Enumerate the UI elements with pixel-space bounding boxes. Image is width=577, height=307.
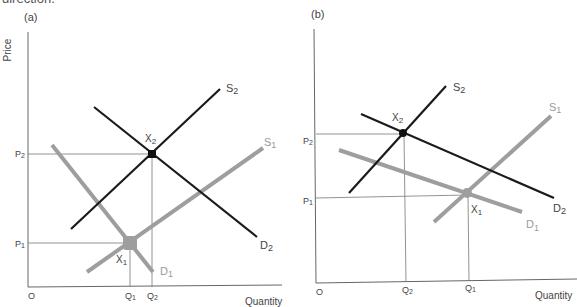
x-axis-label: Quantity	[245, 296, 282, 307]
p1-tick-label: P1	[303, 196, 313, 206]
panel-b-label: (b)	[311, 8, 324, 20]
p2-tick-label: P2	[303, 136, 313, 146]
s1-label: S1	[549, 101, 561, 115]
x1-label: X1	[116, 254, 128, 267]
q1-tick-label: Q1	[465, 283, 476, 293]
supply-curve-s2	[349, 86, 446, 193]
supply-demand-figure: (a) Price X2 X1 S2 S1 D2 D1 P2 P1 O Q1 Q…	[0, 0, 577, 307]
supply-curve-s2	[71, 89, 220, 229]
x2-label: X2	[145, 133, 157, 146]
q2-guide-line	[404, 134, 406, 282]
supply-curve-s1	[87, 148, 263, 272]
origin-label: O	[316, 287, 323, 297]
q1-guide-line	[468, 195, 469, 281]
y-axis	[314, 29, 316, 283]
p2-tick-label: P2	[15, 149, 25, 159]
demand-curve-d2	[94, 107, 257, 237]
demand-curve-d1	[339, 150, 522, 212]
s1-label: S1	[264, 136, 276, 150]
x2-label: X2	[392, 112, 404, 125]
equilibrium-x2-marker	[399, 129, 407, 137]
q2-tick-label: Q2	[147, 291, 158, 301]
demand-curve-d2	[361, 114, 554, 198]
s2-label: S2	[226, 82, 238, 96]
d1-label: D1	[160, 265, 173, 279]
d2-label: D2	[260, 239, 273, 253]
p1-guide-line	[316, 195, 467, 198]
x1-label: X1	[471, 204, 483, 217]
q2-tick-label: Q2	[402, 285, 413, 295]
origin-label: O	[28, 291, 35, 301]
x-axis	[28, 285, 282, 287]
panel-a: (a) Price X2 X1 S2 S1 D2 D1 P2 P1 O Q1 Q…	[2, 11, 282, 307]
q1-tick-label: Q1	[125, 291, 136, 301]
panel-b: (b) X2 X1 S2 S1 D2 D1 P2 P1 O Q2 Q1 Quan…	[303, 8, 577, 301]
supply-curve-s1	[434, 116, 551, 222]
equilibrium-x2-marker	[148, 150, 156, 158]
d1-label: D1	[526, 218, 539, 233]
x-axis-label: Quantity	[535, 290, 572, 301]
s2-label: S2	[453, 81, 465, 95]
y-axis-label: Price	[2, 38, 13, 61]
equilibrium-x1-marker	[462, 188, 472, 198]
panel-a-label: (a)	[24, 11, 37, 23]
d2-label: D2	[553, 202, 566, 216]
x-axis	[316, 279, 577, 283]
demand-curve-d1	[52, 145, 153, 272]
equilibrium-x1-marker	[123, 236, 137, 250]
p1-tick-label: P1	[15, 239, 25, 249]
